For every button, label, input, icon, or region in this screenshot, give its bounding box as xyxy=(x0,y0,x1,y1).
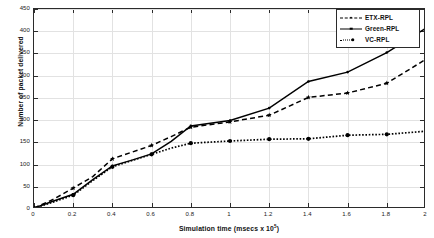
x-axis-tick-label: 1.6 xyxy=(342,211,351,217)
legend-item-vc-rpl: VC-RPL xyxy=(339,34,417,45)
data-point-marker xyxy=(384,81,389,86)
data-point-marker xyxy=(229,119,232,122)
data-point-marker xyxy=(385,132,389,136)
data-point-marker xyxy=(307,80,310,83)
x-axis-tick-label: 1.8 xyxy=(381,211,390,217)
data-point-marker xyxy=(268,107,271,110)
x-axis-title: Simulation time (msecs x 105) xyxy=(33,224,425,232)
data-point-marker xyxy=(110,165,114,169)
data-point-marker xyxy=(306,137,310,141)
data-point-marker xyxy=(150,152,154,156)
data-point-marker xyxy=(190,125,193,128)
data-point-marker xyxy=(71,193,75,197)
data-point-marker xyxy=(149,143,154,148)
legend-label-vc-rpl: VC-RPL xyxy=(365,36,389,43)
legend-item-green-rpl: Green-RPL xyxy=(339,23,417,34)
legend-item-etx-rpl: ETX-RPL xyxy=(339,12,417,23)
x-axis-tick-label: 0.2 xyxy=(68,211,77,217)
data-point-marker xyxy=(345,90,350,95)
y-axis-tick-labels: 050100150200250300350400450 xyxy=(0,8,30,208)
data-point-marker xyxy=(267,137,271,141)
y-axis-tick-label: 100 xyxy=(20,161,30,167)
legend-swatch-dotted-line-icon xyxy=(339,35,363,45)
chart-legend: ETX-RPL Green-RPL VC-RPL xyxy=(336,9,420,48)
data-point-marker xyxy=(346,133,350,137)
x-axis-tick-label: 2 xyxy=(423,211,426,217)
series-green-rpl xyxy=(34,28,425,208)
data-point-marker xyxy=(424,129,425,133)
chart-figure: 050100150200250300350400450 Number of pa… xyxy=(0,0,434,238)
x-axis-title-tail: ) xyxy=(277,225,279,232)
data-point-marker xyxy=(189,141,193,145)
legend-swatch-solid-line-icon xyxy=(339,24,363,34)
y-axis-tick-label: 50 xyxy=(23,183,30,189)
data-point-marker xyxy=(386,51,389,54)
x-axis-tick-labels: 00.20.40.60.811.21.41.61.82 xyxy=(33,211,425,223)
x-axis-tick-label: 0.6 xyxy=(146,211,155,217)
x-axis-tick-label: 1.4 xyxy=(303,211,312,217)
legend-label-etx-rpl: ETX-RPL xyxy=(365,14,393,21)
x-axis-tick-label: 1 xyxy=(227,211,230,217)
x-axis-tick-label: 0.4 xyxy=(107,211,116,217)
x-axis-tick-label: 1.2 xyxy=(264,211,273,217)
data-point-marker xyxy=(346,71,349,74)
y-axis-tick-label: 0 xyxy=(27,205,30,211)
data-point-marker xyxy=(228,139,232,143)
series-etx-rpl xyxy=(34,59,425,208)
data-point-marker xyxy=(424,57,425,62)
data-point-marker xyxy=(267,113,272,118)
x-axis-tick-label: 0.8 xyxy=(185,211,194,217)
legend-label-green-rpl: Green-RPL xyxy=(365,25,399,32)
y-axis-title: Number of packet delivered xyxy=(17,7,24,157)
x-axis-tick-label: 0 xyxy=(31,211,34,217)
data-point-marker xyxy=(33,206,36,208)
x-axis-title-text: Simulation time (msecs x 10 xyxy=(179,225,274,232)
line-etx-rpl xyxy=(34,59,425,208)
legend-swatch-dashed-line-icon xyxy=(339,13,363,23)
line-green-rpl xyxy=(34,28,425,208)
